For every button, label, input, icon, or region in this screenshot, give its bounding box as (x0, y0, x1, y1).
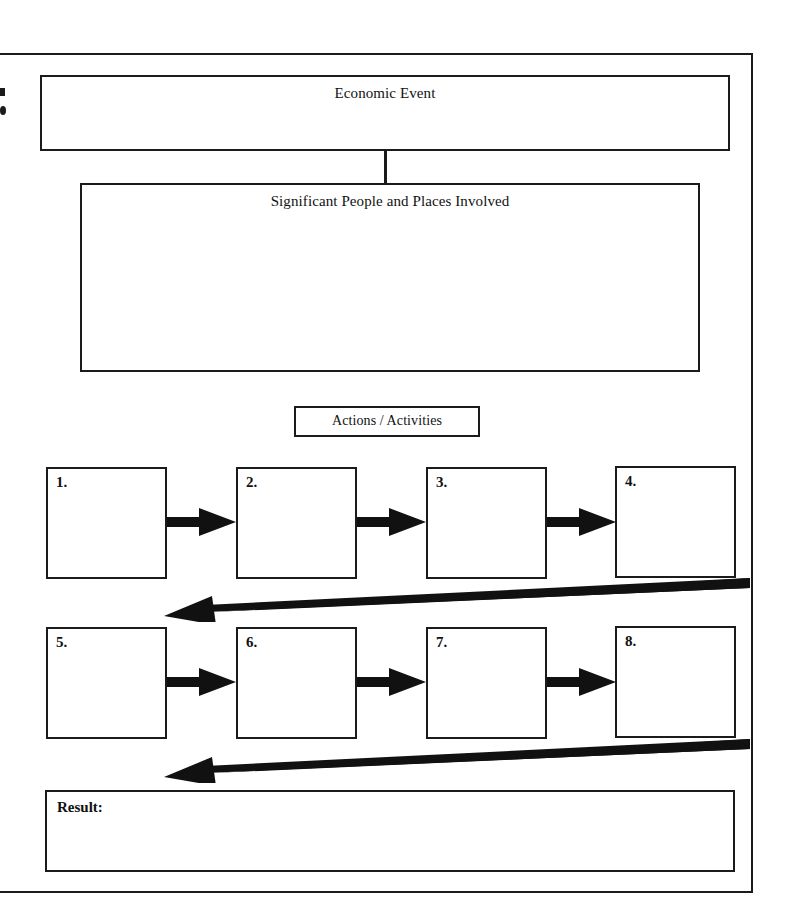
step-box-2[interactable]: 2. (236, 467, 357, 579)
step-box-1[interactable]: 1. (46, 467, 167, 579)
step-box-5[interactable]: 5. (46, 627, 167, 739)
arrow-right-icon (167, 505, 237, 539)
arrow-wrap-left-icon (150, 572, 750, 622)
step-label-7: 7. (436, 634, 447, 651)
arrow-right-icon (547, 505, 617, 539)
arrow-right-icon (167, 665, 237, 699)
economic-event-box[interactable]: Economic Event (40, 75, 730, 151)
step-box-6[interactable]: 6. (236, 627, 357, 739)
arrow-right-icon (357, 505, 427, 539)
step-box-7[interactable]: 7. (426, 627, 547, 739)
vertical-connector (384, 151, 387, 183)
step-label-1: 1. (56, 474, 67, 491)
step-label-2: 2. (246, 474, 257, 491)
result-box[interactable]: Result: (45, 790, 735, 872)
actions-activities-title: Actions / Activities (296, 408, 478, 430)
economic-event-title: Economic Event (42, 77, 728, 102)
arrow-right-icon (357, 665, 427, 699)
worksheet-page: Economic Event Significant People and Pl… (0, 0, 793, 923)
step-label-3: 3. (436, 474, 447, 491)
arrow-wrap-left-icon (150, 733, 750, 783)
people-places-box[interactable]: Significant People and Places Involved (80, 183, 700, 372)
step-box-3[interactable]: 3. (426, 467, 547, 579)
result-label: Result: (57, 799, 103, 816)
step-label-6: 6. (246, 634, 257, 651)
step-label-4: 4. (625, 473, 636, 490)
people-places-title: Significant People and Places Involved (82, 185, 698, 210)
step-label-5: 5. (56, 634, 67, 651)
step-label-8: 8. (625, 633, 636, 650)
arrow-right-icon (547, 665, 617, 699)
step-box-8[interactable]: 8. (615, 626, 736, 738)
step-box-4[interactable]: 4. (615, 466, 736, 578)
actions-activities-header: Actions / Activities (294, 406, 480, 437)
